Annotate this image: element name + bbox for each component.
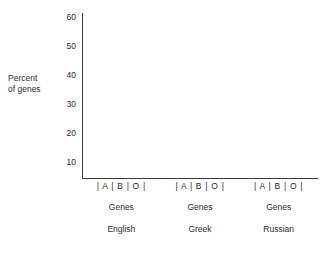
x-axis-category-ticks: | A | B | O | <box>97 181 146 191</box>
y-tick-label-30: 30 <box>52 100 76 109</box>
y-tick-label-60: 60 <box>52 13 76 22</box>
x-axis-group-greek: | A | B | O | Genes Greek <box>161 179 240 249</box>
x-axis-group-language: Russian <box>263 224 294 234</box>
y-axis-tick-labels: 60 50 40 30 20 10 <box>52 0 76 254</box>
x-axis-category-ticks: | A | B | O | <box>254 181 303 191</box>
chart-figure: Percent of genes 60 50 40 30 20 10 | A |… <box>0 0 330 254</box>
y-tick-label-50: 50 <box>52 42 76 51</box>
x-axis-group-english: | A | B | O | Genes English <box>82 179 161 249</box>
plot-area <box>83 13 318 178</box>
x-axis-group-sublabel: Genes <box>109 202 134 212</box>
x-axis-group-russian: | A | B | O | Genes Russian <box>239 179 318 249</box>
y-tick-label-10: 10 <box>52 158 76 167</box>
x-axis-group-language: English <box>107 224 135 234</box>
y-tick-label-40: 40 <box>52 71 76 80</box>
x-axis-group-language: Greek <box>188 224 211 234</box>
x-axis-category-ticks: | A | B | O | <box>175 181 224 191</box>
x-axis-group-sublabel: Genes <box>187 202 212 212</box>
y-tick-label-20: 20 <box>52 129 76 138</box>
x-axis-group-sublabel: Genes <box>266 202 291 212</box>
x-axis-groups: | A | B | O | Genes English | A | B | O … <box>82 179 318 249</box>
